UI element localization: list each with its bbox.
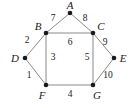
node-d — [23, 56, 28, 61]
node-a — [68, 11, 73, 16]
node-g — [91, 83, 96, 88]
node-b — [44, 31, 49, 36]
edge-a-c — [70, 13, 93, 33]
edge-a-b — [46, 13, 70, 33]
edge-d-f — [25, 58, 46, 85]
node-c — [91, 31, 96, 36]
node-e — [112, 56, 117, 61]
edges-group — [25, 13, 114, 85]
edge-b-d — [25, 33, 46, 58]
edge-e-g — [93, 58, 114, 85]
node-f — [44, 83, 49, 88]
graph-canvas — [0, 0, 132, 108]
graph-diagram: 78623951104ABCDEFG — [0, 0, 132, 108]
nodes-group — [23, 11, 117, 88]
edge-c-e — [93, 33, 114, 58]
